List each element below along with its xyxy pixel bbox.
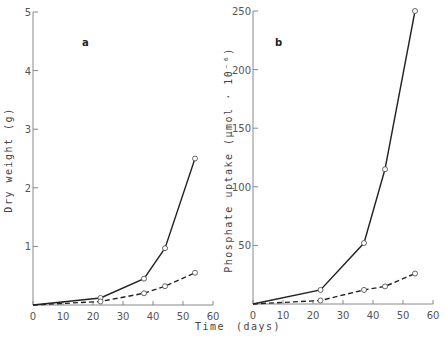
panel-label: b — [275, 37, 282, 48]
x-tick-label: 0 — [30, 311, 36, 322]
x-tick-label: 20 — [307, 310, 320, 321]
y-tick-label: 2 — [25, 183, 31, 194]
y-tick-label: 150 — [232, 123, 251, 134]
data-point-marker — [318, 287, 323, 292]
data-point-marker — [98, 299, 103, 304]
data-point-marker — [383, 284, 388, 289]
data-point-marker — [193, 270, 198, 275]
series-line-solid — [253, 11, 415, 304]
y-tick-label: 5 — [25, 7, 31, 18]
x-tick-label: 10 — [57, 311, 70, 322]
y-tick-label: 50 — [238, 240, 251, 251]
data-point-marker — [163, 246, 168, 251]
figure: 010203040506012345aDry weight (g) 010203… — [0, 0, 445, 338]
data-point-marker — [362, 287, 367, 292]
panel-b-phosphate-uptake: 010203040506050100150200250bPhosphate up… — [223, 6, 439, 321]
x-tick-label: 10 — [277, 310, 290, 321]
x-tick-label: 50 — [177, 311, 190, 322]
panel-a-dry-weight: 010203040506012345aDry weight (g) — [3, 7, 219, 322]
y-axis-title: Phosphate uptake (µmol · 10⁻⁶) — [223, 47, 234, 273]
x-tick-label: 60 — [427, 310, 440, 321]
x-tick-label: 30 — [117, 311, 130, 322]
panel-label: a — [82, 37, 89, 48]
data-point-marker — [383, 167, 388, 172]
y-tick-label: 250 — [232, 6, 251, 17]
data-point-marker — [193, 156, 198, 161]
x-tick-label: 0 — [250, 310, 256, 321]
data-point-marker — [318, 298, 323, 303]
data-point-marker — [163, 284, 168, 289]
y-tick-label: 4 — [25, 66, 31, 77]
series-line-dashed — [33, 273, 195, 305]
x-tick-label: 40 — [147, 311, 160, 322]
x-tick-label: 30 — [337, 310, 350, 321]
y-tick-label: 1 — [25, 241, 31, 252]
x-axis-title-time: Time — [195, 321, 225, 332]
y-axis-title: Dry weight (g) — [3, 107, 14, 212]
x-tick-label: 20 — [87, 311, 100, 322]
y-tick-label: 3 — [25, 124, 31, 135]
data-point-marker — [142, 276, 147, 281]
x-tick-label: 40 — [367, 310, 380, 321]
x-axis-title-days: (days) — [236, 321, 281, 332]
data-point-marker — [362, 241, 367, 246]
data-point-marker — [142, 291, 147, 296]
y-tick-label: 200 — [232, 65, 251, 76]
y-tick-label: 100 — [232, 182, 251, 193]
data-point-marker — [413, 9, 418, 14]
x-tick-label: 50 — [397, 310, 410, 321]
data-point-marker — [413, 271, 418, 276]
